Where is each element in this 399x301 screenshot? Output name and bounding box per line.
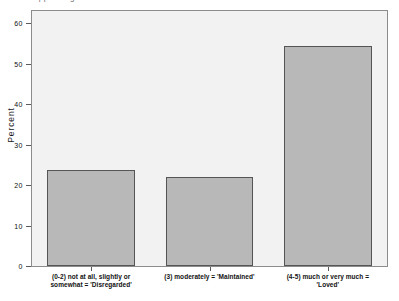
y-tick-label: 0	[0, 263, 23, 270]
truncated-title: appraising	[34, 0, 234, 2]
x-axis-category-label-line: (3) moderately = 'Maintained'	[143, 273, 275, 281]
x-tick-mark	[210, 267, 211, 271]
bar	[47, 170, 135, 266]
bar	[284, 46, 372, 266]
x-axis-category-label-line: 'Loved'	[262, 281, 394, 289]
x-tick-mark	[328, 267, 329, 271]
x-tick-mark	[91, 267, 92, 271]
x-axis-category-label: (0-2) not at all, slightly orsomewhat = …	[25, 273, 157, 289]
bar	[166, 177, 254, 266]
y-tick-label: 30	[0, 141, 23, 148]
x-axis-category-label: (4-5) much or very much ='Loved'	[262, 273, 394, 289]
truncated-title-text: appraising	[34, 0, 234, 2]
x-axis-category-label: (3) moderately = 'Maintained'	[143, 273, 275, 281]
y-tick-label: 60	[0, 20, 23, 27]
y-tick-label: 10	[0, 222, 23, 229]
y-tick-label: 50	[0, 60, 23, 67]
x-axis-category-label-line: (4-5) much or very much =	[262, 273, 394, 281]
plot-inner	[32, 11, 387, 266]
y-tick-label: 20	[0, 182, 23, 189]
x-axis-category-label-line: somewhat = 'Disregarded'	[25, 281, 157, 289]
x-axis-category-label-line: (0-2) not at all, slightly or	[25, 273, 157, 281]
plot-area	[31, 10, 388, 267]
y-tick-label: 40	[0, 101, 23, 108]
bar-chart-figure: appraising Percent 0102030405060 (0-2) n…	[0, 0, 399, 301]
